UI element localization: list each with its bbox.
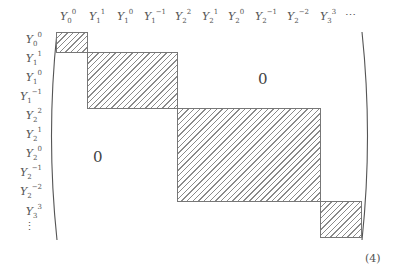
row-label-y10: Y10 (2, 70, 42, 86)
col-ellipsis: ⋯ (345, 9, 356, 22)
block-l1 (87, 52, 178, 109)
row-label-y20: Y20 (2, 146, 42, 162)
lower-zero: 0 (93, 148, 103, 166)
col-label-y22: Y22 (175, 9, 191, 25)
row-label-y33: Y33 (2, 204, 42, 220)
row-label-y11: Y11 (2, 51, 42, 67)
row-label-y2m1: Y2−1 (2, 165, 42, 181)
col-label-y21: Y21 (202, 9, 218, 25)
left-paren (44, 30, 60, 242)
col-label-y20: Y20 (228, 9, 244, 25)
row-label-y00: Y00 (2, 32, 42, 48)
block-l0 (56, 32, 88, 53)
col-label-y11: Y11 (89, 9, 105, 25)
row-label-y21: Y21 (2, 127, 42, 143)
col-label-y00: Y00 (60, 9, 76, 25)
col-label-y2m2: Y2−2 (287, 9, 309, 25)
row-label-y1m1: Y1−1 (2, 89, 42, 105)
equation-number: (4) (365, 252, 381, 265)
upper-zero: 0 (258, 70, 268, 88)
block-l3 (320, 201, 362, 238)
row-ellipsis: ⋮ (2, 220, 35, 233)
block-l2 (177, 108, 321, 202)
col-label-y2m1: Y2−1 (255, 9, 277, 25)
col-label-y10: Y10 (117, 9, 133, 25)
col-label-y33: Y33 (320, 9, 336, 25)
col-label-y1m1: Y1−1 (144, 9, 166, 25)
row-label-y2m2: Y2−2 (2, 184, 42, 200)
row-label-y22: Y22 (2, 108, 42, 124)
